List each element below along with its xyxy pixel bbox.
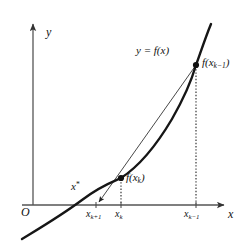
- point-upper-label-subscript: k−1: [214, 61, 226, 70]
- function-label: y = f(x): [136, 45, 169, 56]
- root-label: x*: [71, 181, 80, 192]
- function-curve: [22, 24, 211, 239]
- root-label-star: *: [76, 180, 80, 189]
- tick-label-xk-minus-1-subscript: k−1: [188, 213, 199, 220]
- point-lower-label-base: f(x: [126, 171, 138, 183]
- x-axis-label: x: [228, 208, 233, 220]
- point-lower-label: f(xk): [126, 172, 145, 183]
- point-lower-label-close: ): [141, 171, 145, 183]
- tick-label-xk-plus-1-subscript: k+1: [90, 213, 101, 220]
- y-axis-label: y: [46, 26, 51, 38]
- point-upper-label-base: f(x: [202, 56, 214, 68]
- tick-label-xk-plus-1: xk+1: [86, 209, 101, 219]
- tick-label-xk: xk: [115, 209, 122, 219]
- tick-label-xk-minus-1: xk−1: [184, 209, 199, 219]
- point-fxk-minus-1: [193, 62, 199, 68]
- point-lower-label-subscript: k: [138, 176, 141, 185]
- secant-method-figure: y x O y = f(x) x* f(xk−1) f(xk) xk+1 xk …: [0, 0, 241, 248]
- point-fxk: [118, 175, 124, 181]
- origin-label: O: [21, 206, 30, 218]
- point-upper-label-close: ): [226, 56, 230, 68]
- point-upper-label: f(xk−1): [202, 57, 229, 68]
